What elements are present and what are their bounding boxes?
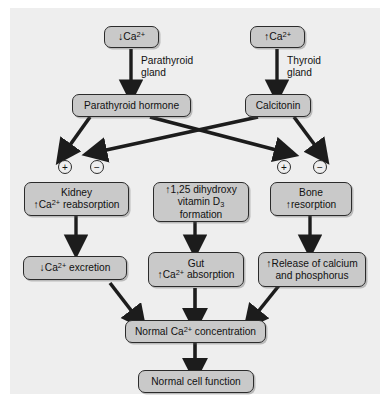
label-parathyroid-gland: Parathyroid gland xyxy=(141,55,221,80)
node-normal-calcium[interactable]: Normal Ca2+ concentration xyxy=(125,320,266,343)
sign-kidney-minus: − xyxy=(90,160,104,174)
node-high-calcium[interactable]: ↑Ca2+ xyxy=(250,26,305,48)
release-calcium-line1: ↑Release of calcium xyxy=(266,258,357,270)
figure-canvas: ↓Ca2+ ↑Ca2+ Parathyroid gland Thyroid gl… xyxy=(0,0,390,412)
kidney-line1: Kidney xyxy=(61,187,92,198)
gut-line1: Gut xyxy=(188,258,204,269)
calcitonin-label: Calcitonin xyxy=(256,100,301,111)
node-release-calcium[interactable]: ↑Release of calcium and phosphorus xyxy=(258,252,366,287)
vitamin-d-line2: vitamin D3 xyxy=(178,196,225,209)
bone-line2: ↑resorption xyxy=(286,199,337,211)
release-calcium-line2: and phosphorus xyxy=(275,270,348,281)
parathyroid-hormone-label: Parathyroid hormone xyxy=(84,100,179,111)
vitamin-d-line1: ↑1,25 dihydroxy xyxy=(165,184,236,196)
sign-bone-plus: + xyxy=(277,160,291,174)
kidney-line2: ↑Ca2+ reabsorption xyxy=(33,199,119,211)
vitamin-d-line3: formation xyxy=(180,209,222,220)
sign-kidney-plus: + xyxy=(58,160,72,174)
node-gut[interactable]: Gut ↑Ca2+ absorption xyxy=(148,252,244,287)
node-kidney[interactable]: Kidney ↑Ca2+ reabsorption xyxy=(24,182,129,216)
node-low-calcium[interactable]: ↓Ca2+ xyxy=(104,26,159,48)
node-parathyroid-hormone[interactable]: Parathyroid hormone xyxy=(72,94,191,117)
node-bone[interactable]: Bone ↑resorption xyxy=(270,182,352,216)
sign-bone-minus: − xyxy=(313,160,327,174)
label-thyroid-gland: Thyroid gland xyxy=(287,55,357,80)
high-calcium-label: ↑Ca2+ xyxy=(264,31,291,43)
gut-line2: ↑Ca2+ absorption xyxy=(158,269,235,281)
node-calcium-excretion[interactable]: ↓Ca2+ excretion xyxy=(23,256,127,280)
node-vitamin-d[interactable]: ↑1,25 dihydroxy vitamin D3 formation xyxy=(153,182,249,222)
node-normal-cell-function[interactable]: Normal cell function xyxy=(138,370,254,393)
node-calcitonin[interactable]: Calcitonin xyxy=(245,94,311,117)
normal-cell-function-label: Normal cell function xyxy=(151,376,240,387)
low-calcium-label: ↓Ca2+ xyxy=(118,31,145,43)
bone-line1: Bone xyxy=(299,187,323,198)
calcium-excretion-label: ↓Ca2+ excretion xyxy=(40,262,111,274)
normal-calcium-label: Normal Ca2+ concentration xyxy=(135,326,256,337)
